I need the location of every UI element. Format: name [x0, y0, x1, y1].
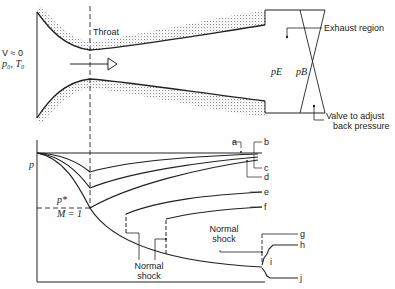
curve-c	[37, 153, 258, 188]
curve-label-i: i	[270, 257, 272, 267]
inlet-state-label: p₀, T₀	[2, 59, 25, 69]
curve-label-j: j	[300, 273, 302, 283]
curve-h	[262, 245, 298, 265]
curve-label-h: h	[300, 240, 305, 250]
normal-shock-label-2-line2: shock	[204, 234, 244, 244]
valve-icon	[300, 10, 325, 113]
nozzle-flow-diagram: V ≈ 0 p₀, T₀ Throat pE pB Exhaust region…	[0, 0, 395, 289]
shock-leader-1	[126, 233, 167, 260]
exit-pressure-label: pE	[271, 67, 282, 77]
valve-leader	[313, 105, 324, 120]
exhaust-region-box	[265, 10, 325, 113]
back-pressure-label: pB	[296, 67, 307, 77]
curve-b	[37, 153, 258, 172]
mach-one-label: M = 1	[57, 209, 82, 219]
throat-label: Throat	[93, 27, 119, 37]
curve-g	[262, 234, 298, 262]
curve-label-f: f	[264, 202, 267, 212]
curve-j	[262, 268, 298, 278]
p-star-label: p*	[57, 195, 67, 205]
y-axis-label: p	[29, 160, 34, 170]
curve-label-a: a	[232, 137, 237, 147]
upper-nozzle-wall	[37, 6, 265, 50]
normal-shock-label-1-line1: Normal	[129, 261, 169, 271]
curve-label-d: d	[264, 172, 269, 182]
curve-label-b: b	[264, 137, 269, 147]
label-leaders-abcd	[232, 142, 262, 207]
exhaust-region-label: Exhaust region	[324, 23, 384, 33]
diagram-graphics	[0, 0, 395, 289]
normal-shock-label-2-line1: Normal	[204, 224, 244, 234]
inlet-velocity-label: V ≈ 0	[2, 48, 23, 58]
curve-label-g: g	[300, 229, 305, 239]
valve-label-line2: back pressure	[333, 121, 390, 131]
lower-nozzle-wall	[37, 79, 265, 124]
valve-label-line1: Valve to adjust	[326, 111, 384, 121]
shock-leader-2	[220, 250, 263, 253]
flow-arrow-icon	[70, 58, 117, 70]
normal-shock-label-1-line2: shock	[129, 271, 169, 281]
exhaust-leader	[286, 28, 322, 38]
curve-label-e: e	[264, 187, 269, 197]
